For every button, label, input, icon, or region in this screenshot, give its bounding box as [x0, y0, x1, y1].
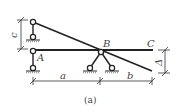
label-delta: Δ	[153, 59, 164, 67]
upper-left-link	[26, 19, 40, 41]
dimension-ab	[30, 77, 155, 85]
label-c: c	[8, 32, 19, 38]
support-B	[83, 49, 119, 72]
label-a: a	[60, 70, 66, 81]
label-C: C	[147, 38, 155, 49]
figure-caption: (a)	[84, 95, 96, 105]
label-B: B	[102, 38, 110, 49]
label-b: b	[127, 70, 133, 81]
label-A: A	[36, 52, 44, 63]
mechanism-diagram: c A B C Δ a b (a)	[0, 0, 181, 112]
